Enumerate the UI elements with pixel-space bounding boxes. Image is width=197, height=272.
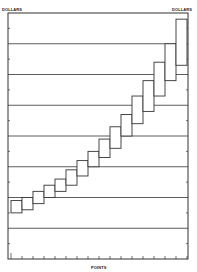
data-box (88, 151, 99, 166)
data-box (132, 96, 143, 124)
data-box (176, 19, 187, 65)
data-box (66, 170, 77, 185)
data-boxes (11, 19, 187, 213)
data-box (11, 201, 22, 213)
data-box (143, 81, 154, 112)
data-box (44, 185, 55, 197)
data-box (22, 198, 33, 210)
data-box (121, 114, 132, 136)
data-box (154, 62, 165, 96)
data-box (165, 44, 176, 81)
data-box (110, 127, 121, 149)
data-box (55, 179, 66, 191)
data-box (77, 161, 88, 176)
data-box (99, 139, 110, 157)
chart-plot-area (0, 0, 197, 272)
data-box (33, 191, 44, 203)
